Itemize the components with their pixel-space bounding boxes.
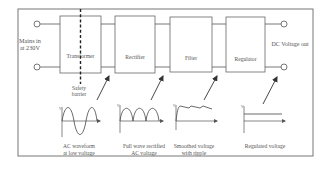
svg-text:V: V — [241, 105, 244, 109]
waveform-rectified: V — [117, 104, 163, 133]
pointer-arrows — [97, 76, 277, 104]
dc-out-label: DC Voltage out — [271, 41, 308, 47]
waveform-smoothed-caption: Smoothed voltage — [174, 143, 215, 149]
output-terminal-top — [281, 21, 287, 27]
svg-text:V: V — [59, 107, 62, 111]
mains-voltage-label: at 230V — [20, 44, 40, 51]
svg-text:V: V — [173, 104, 176, 108]
block-label: Rectifier — [125, 54, 145, 60]
block-rectifier: Rectifier — [115, 16, 155, 73]
block-label: Regulator — [234, 56, 256, 62]
waveform-ac-caption-2: at low voltage — [63, 150, 95, 156]
waveform-rectified-caption: Full wave rectified — [123, 143, 165, 149]
waveform-regulated-caption: Regulated voltage — [245, 143, 286, 149]
mains-in-label: Mains in — [19, 37, 41, 44]
waveform-regulated: V — [241, 105, 285, 133]
input-terminal-bottom — [34, 64, 40, 70]
svg-text:V: V — [117, 104, 120, 108]
block-filter: Filter — [170, 17, 212, 72]
waveform-ac-caption: AC waveform — [63, 143, 95, 149]
waveform-ac: V — [59, 107, 100, 137]
waveform-smoothed-caption-2: with ripple — [182, 150, 207, 156]
safety-barrier-label-2: barrier — [72, 91, 87, 97]
waveform-smoothed: V — [173, 104, 217, 130]
output-terminal-bottom — [281, 64, 287, 70]
power-supply-diagram: Mains in at 230V Transformer Rectifier F… — [0, 0, 329, 169]
block-label: Filter — [185, 55, 197, 61]
block-transformer: Transformer — [60, 16, 101, 73]
input-terminal-top — [34, 21, 40, 27]
block-regulator: Regulator — [226, 17, 265, 72]
waveform-rectified-caption-2: AC voltage — [131, 150, 157, 156]
